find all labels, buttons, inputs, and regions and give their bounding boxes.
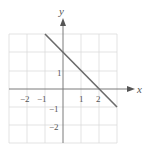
x-tick-m1: −1 xyxy=(37,94,47,104)
y-tick-m1: −1 xyxy=(49,104,59,114)
line-graph: x y −2 −1 1 2 1 −1 −2 xyxy=(0,0,145,157)
x-tick-m2: −2 xyxy=(20,94,30,104)
y-axis-arrow-icon xyxy=(60,18,66,26)
x-axis-label: x xyxy=(136,83,142,95)
y-tick-m2: −2 xyxy=(49,122,59,132)
y-tick-1: 1 xyxy=(57,68,62,78)
y-axis-label: y xyxy=(58,5,64,17)
x-tick-1: 1 xyxy=(79,94,84,104)
x-axis-arrow-icon xyxy=(127,86,135,92)
x-tick-2: 2 xyxy=(96,94,101,104)
